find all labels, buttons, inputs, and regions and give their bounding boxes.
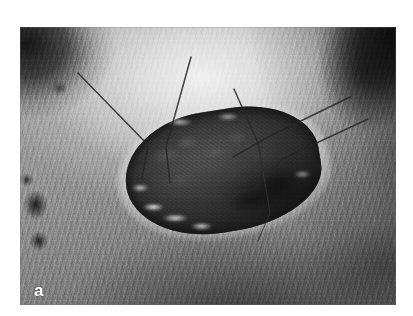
figure-page: a	[0, 0, 413, 316]
suture-svg	[20, 27, 396, 305]
suture-threads	[20, 27, 396, 305]
clinical-photograph: a	[20, 27, 396, 305]
suture-thread-5	[256, 119, 368, 187]
panel-label: a	[34, 282, 43, 299]
suture-thread-6	[258, 153, 270, 241]
suture-thread-2	[166, 57, 191, 183]
suture-thread-1	[78, 73, 148, 179]
suture-thread-3	[234, 89, 264, 177]
